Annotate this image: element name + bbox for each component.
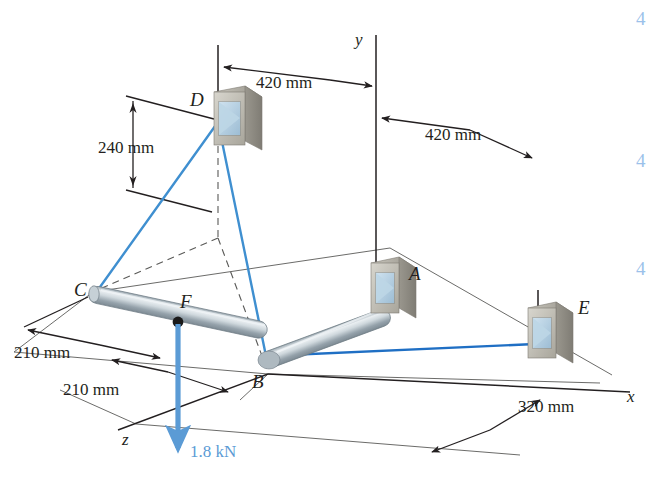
dim-210-lower-leader-a	[112, 360, 168, 372]
edge-mark-2: 4	[636, 150, 646, 172]
point-label-F: F	[180, 292, 192, 311]
dimension-label-210-upper: 210 mm	[14, 344, 70, 361]
edge-mark-3: 4	[636, 258, 646, 280]
load-label-1p8kN: 1.8 kN	[190, 443, 236, 460]
dim-210-upper-ext	[24, 297, 88, 327]
dim-210-upper-leader-b	[100, 345, 160, 358]
point-label-A: A	[409, 264, 421, 283]
rod-end-cap-C	[89, 286, 99, 302]
bracket-D	[214, 86, 262, 150]
x-axis-line	[268, 374, 630, 392]
edge-mark-1: 4	[636, 8, 646, 30]
axis-label-z: z	[122, 431, 129, 448]
dimension-label-240: 240 mm	[98, 139, 154, 156]
rod-bend-B	[258, 351, 280, 369]
dimension-label-210-lower: 210 mm	[63, 381, 119, 398]
dim-420-left-leader-b	[330, 80, 372, 86]
dim-320-leader-b	[432, 430, 490, 452]
axis-label-x: x	[627, 388, 635, 405]
cables-group	[95, 122, 535, 356]
dimension-label-320: 320 mm	[518, 398, 574, 415]
point-label-C: C	[74, 280, 87, 299]
dimension-label-420-left: 420 mm	[256, 74, 312, 91]
point-label-E: E	[578, 298, 590, 317]
bracket-E	[528, 302, 573, 363]
dimension-label-420-right: 420 mm	[425, 126, 481, 143]
axis-label-y: y	[355, 31, 363, 48]
z-axis-line	[118, 374, 268, 430]
dim-240-ext-bot	[126, 190, 212, 212]
point-label-B: B	[252, 372, 264, 391]
figure-canvas: 420 mm 420 mm 240 mm 210 mm 210 mm 320 m…	[0, 0, 646, 484]
point-label-D: D	[190, 90, 204, 109]
